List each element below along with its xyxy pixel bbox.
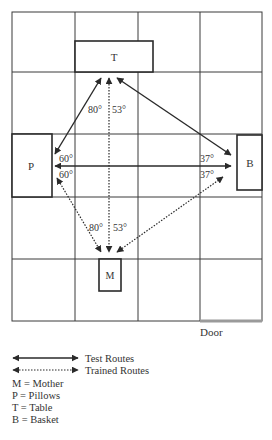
legend-key-table: T = Table	[12, 402, 53, 413]
angle-label-right-top: 37°	[200, 153, 214, 164]
table-letter: T	[111, 51, 118, 63]
legend-key-mother: M = Mother	[12, 378, 64, 389]
angle-label-bottom-right: 53°	[113, 222, 127, 233]
legend-key-pillows: P = Pillows	[12, 390, 60, 401]
legend-test-routes: Test Routes	[85, 353, 134, 364]
test-route-table-basket	[117, 78, 231, 155]
angle-label-left-bottom: 60°	[59, 169, 73, 180]
basket-object: B	[237, 135, 262, 190]
angle-label-top-left: 80°	[88, 104, 102, 115]
trained-route-mother-basket	[117, 177, 223, 252]
legend-key-basket: B = Basket	[12, 414, 59, 425]
basket-letter: B	[246, 157, 253, 169]
angle-label-right-bottom: 37°	[200, 169, 214, 180]
angle-label-bottom-left: 80°	[89, 222, 103, 233]
room-diagram: Door T P B M 80° 53° 60° 60° 37° 37° 80°…	[0, 0, 272, 440]
pillows-object: P	[12, 134, 52, 197]
angle-label-left-top: 60°	[59, 153, 73, 164]
mother-object: M	[99, 259, 121, 291]
table-object: T	[75, 41, 153, 72]
trained-route-pillows-mother	[57, 178, 101, 252]
angle-label-top-right: 53°	[112, 104, 126, 115]
pillows-letter: P	[28, 160, 34, 172]
legend: Test Routes Trained Routes M = Mother P …	[12, 353, 149, 425]
legend-trained-routes: Trained Routes	[85, 365, 149, 376]
mother-letter: M	[106, 270, 115, 281]
door-label: Door	[200, 326, 223, 338]
test-route-pillows-table	[55, 78, 101, 154]
